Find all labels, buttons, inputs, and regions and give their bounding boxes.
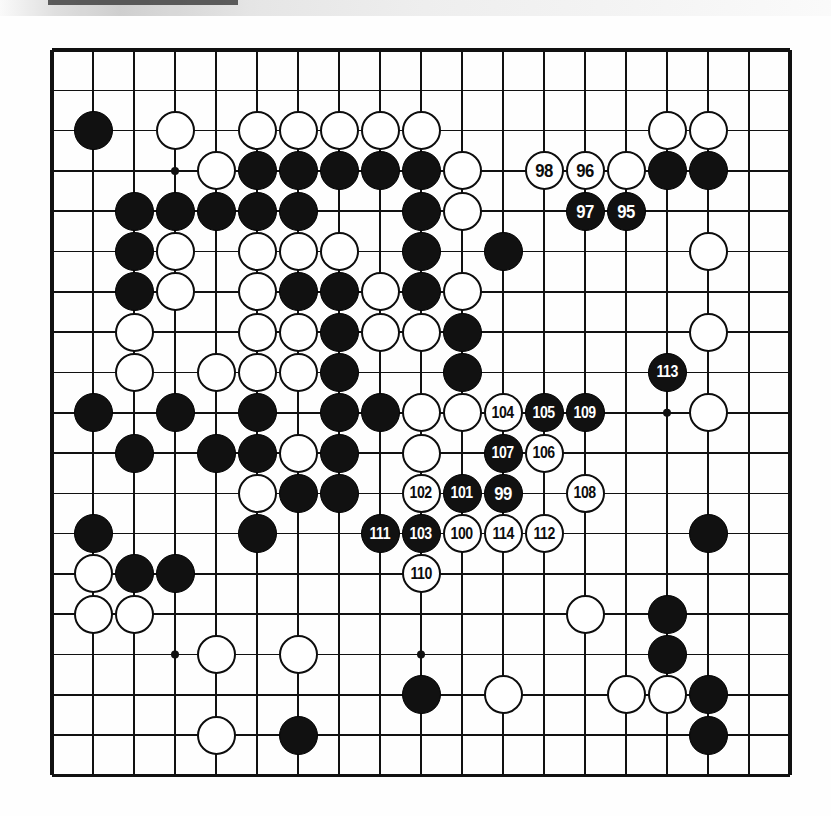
stone-black[interactable] bbox=[648, 151, 687, 190]
stone-white[interactable] bbox=[402, 393, 441, 432]
stone-black[interactable] bbox=[115, 434, 154, 473]
stone-white[interactable] bbox=[443, 151, 482, 190]
stone-black[interactable] bbox=[74, 111, 113, 150]
stone-white[interactable] bbox=[74, 554, 113, 593]
stone-white-move-108[interactable]: 108 bbox=[566, 474, 605, 513]
stone-black[interactable] bbox=[648, 635, 687, 674]
stone-white[interactable] bbox=[566, 595, 605, 634]
stone-black[interactable] bbox=[156, 393, 195, 432]
stone-white[interactable] bbox=[607, 151, 646, 190]
stone-white[interactable] bbox=[197, 635, 236, 674]
stone-black[interactable] bbox=[689, 675, 728, 714]
stone-white[interactable] bbox=[238, 111, 277, 150]
stone-white-move-100[interactable]: 100 bbox=[443, 514, 482, 553]
stone-black[interactable] bbox=[648, 595, 687, 634]
stone-black[interactable] bbox=[197, 192, 236, 231]
stone-white[interactable] bbox=[402, 313, 441, 352]
stone-white[interactable] bbox=[197, 151, 236, 190]
stone-white[interactable] bbox=[689, 111, 728, 150]
stone-white-move-112[interactable]: 112 bbox=[525, 514, 564, 553]
stone-white[interactable] bbox=[361, 111, 400, 150]
stone-black-move-103[interactable]: 103 bbox=[402, 514, 441, 553]
stone-black[interactable] bbox=[689, 514, 728, 553]
stone-white[interactable] bbox=[648, 111, 687, 150]
stone-white-move-114[interactable]: 114 bbox=[484, 514, 523, 553]
stone-black[interactable] bbox=[320, 393, 359, 432]
stone-white[interactable] bbox=[279, 232, 318, 271]
stone-white[interactable] bbox=[689, 393, 728, 432]
stone-black[interactable] bbox=[238, 434, 277, 473]
stone-black[interactable] bbox=[402, 675, 441, 714]
stone-white[interactable] bbox=[279, 635, 318, 674]
stone-black[interactable] bbox=[238, 192, 277, 231]
stone-white[interactable] bbox=[197, 716, 236, 755]
stone-black-move-113[interactable]: 113 bbox=[648, 353, 687, 392]
stone-white[interactable] bbox=[156, 111, 195, 150]
stone-black[interactable] bbox=[156, 554, 195, 593]
stone-black[interactable] bbox=[197, 434, 236, 473]
stone-white[interactable] bbox=[238, 313, 277, 352]
stone-black[interactable] bbox=[443, 313, 482, 352]
stone-white[interactable] bbox=[689, 313, 728, 352]
stone-white[interactable] bbox=[279, 111, 318, 150]
stone-black[interactable] bbox=[320, 272, 359, 311]
stone-black[interactable] bbox=[279, 272, 318, 311]
stone-black-move-95[interactable]: 95 bbox=[607, 192, 646, 231]
stone-white[interactable] bbox=[74, 595, 113, 634]
stone-black[interactable] bbox=[320, 474, 359, 513]
stone-white[interactable] bbox=[156, 232, 195, 271]
stone-white-move-110[interactable]: 110 bbox=[402, 554, 441, 593]
go-board[interactable]: 9896979511310410510910710610210199108111… bbox=[0, 0, 831, 816]
stone-black[interactable] bbox=[361, 151, 400, 190]
stone-black-move-105[interactable]: 105 bbox=[525, 393, 564, 432]
stone-black[interactable] bbox=[74, 393, 113, 432]
stone-black[interactable] bbox=[115, 272, 154, 311]
stone-black[interactable] bbox=[320, 353, 359, 392]
stone-black[interactable] bbox=[279, 716, 318, 755]
stone-black[interactable] bbox=[156, 192, 195, 231]
stone-white[interactable] bbox=[238, 353, 277, 392]
stone-white[interactable] bbox=[320, 111, 359, 150]
stone-black-move-97[interactable]: 97 bbox=[566, 192, 605, 231]
stone-black-move-111[interactable]: 111 bbox=[361, 514, 400, 553]
stone-black-move-99[interactable]: 99 bbox=[484, 474, 523, 513]
stone-black[interactable] bbox=[320, 434, 359, 473]
stone-white[interactable] bbox=[648, 675, 687, 714]
stone-black[interactable] bbox=[115, 192, 154, 231]
stone-white-move-104[interactable]: 104 bbox=[484, 393, 523, 432]
stone-black[interactable] bbox=[238, 393, 277, 432]
stone-white[interactable] bbox=[279, 434, 318, 473]
stone-black[interactable] bbox=[689, 716, 728, 755]
stone-black[interactable] bbox=[484, 232, 523, 271]
stone-white-move-96[interactable]: 96 bbox=[566, 151, 605, 190]
stone-black[interactable] bbox=[279, 474, 318, 513]
stone-black-move-107[interactable]: 107 bbox=[484, 434, 523, 473]
stone-white[interactable] bbox=[443, 393, 482, 432]
stone-white[interactable] bbox=[484, 675, 523, 714]
stone-white-move-98[interactable]: 98 bbox=[525, 151, 564, 190]
stone-white[interactable] bbox=[115, 595, 154, 634]
stone-black[interactable] bbox=[443, 353, 482, 392]
stone-white[interactable] bbox=[238, 272, 277, 311]
stone-black[interactable] bbox=[238, 514, 277, 553]
stone-black[interactable] bbox=[689, 151, 728, 190]
stone-white[interactable] bbox=[115, 353, 154, 392]
stone-black[interactable] bbox=[74, 514, 113, 553]
stone-white[interactable] bbox=[402, 434, 441, 473]
stone-white[interactable] bbox=[279, 353, 318, 392]
stone-white[interactable] bbox=[689, 232, 728, 271]
stone-white[interactable] bbox=[607, 675, 646, 714]
stone-black[interactable] bbox=[115, 554, 154, 593]
stone-black[interactable] bbox=[238, 151, 277, 190]
stone-black-move-109[interactable]: 109 bbox=[566, 393, 605, 432]
stone-black-move-101[interactable]: 101 bbox=[443, 474, 482, 513]
stone-black[interactable] bbox=[320, 151, 359, 190]
stone-black[interactable] bbox=[115, 232, 154, 271]
stone-white[interactable] bbox=[361, 313, 400, 352]
stone-black[interactable] bbox=[361, 393, 400, 432]
stone-white[interactable] bbox=[197, 353, 236, 392]
stone-black[interactable] bbox=[279, 192, 318, 231]
stone-white[interactable] bbox=[402, 111, 441, 150]
stone-black[interactable] bbox=[320, 313, 359, 352]
stone-white[interactable] bbox=[320, 232, 359, 271]
